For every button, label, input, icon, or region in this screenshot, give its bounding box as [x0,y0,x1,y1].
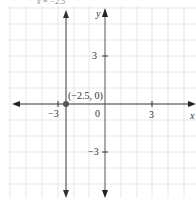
line-up-arrow-icon [63,10,69,18]
tick-label-x-neg3: −3 [48,108,59,119]
x-axis-label: x [189,110,195,121]
y-axis-up-arrow-icon [102,8,108,17]
grid [8,6,196,198]
point-neg2.5-0 [63,101,69,107]
point-label: (−2.5, 0) [68,90,103,102]
tick-label-x-3: 3 [149,109,154,120]
y-axis [102,8,108,198]
x-axis-right-arrow-icon [188,101,196,107]
y-axis-down-arrow-icon [102,190,108,198]
tick-label-origin: 0 [95,108,100,119]
tick-label-y-3: 3 [92,50,97,61]
line-down-arrow-icon [63,190,69,198]
x-axis-left-arrow-icon [12,101,20,107]
title-label: x = −2.5 [36,0,65,6]
tick-label-y-neg3: −3 [88,146,99,157]
y-axis-label: y [95,8,101,19]
coordinate-plane: (−2.5, 0) −3 0 3 3 −3 y x x = −2.5 [0,0,196,198]
